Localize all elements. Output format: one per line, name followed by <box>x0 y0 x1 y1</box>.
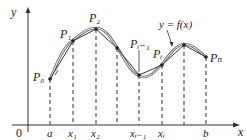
point-label-pi: Pᵢ <box>152 47 162 61</box>
curve-label-arrow-icon <box>170 42 174 47</box>
x-axis-label: x <box>237 125 244 139</box>
point-label-pn: Pₙ <box>209 51 222 65</box>
tick-label-xi-minus-1: xᵢ₋₁ <box>129 127 146 139</box>
point-label-pi-minus-1: Pᵢ₋₁ <box>129 37 150 51</box>
point-label-p1: P₁ <box>59 27 72 41</box>
origin-label: 0 <box>16 126 22 140</box>
curve-label: y = f(x) <box>158 18 192 31</box>
tick-label-x2: x₂ <box>90 127 100 139</box>
tick-label-b: b <box>203 127 209 139</box>
tick-label-xi: xᵢ <box>157 127 165 139</box>
y-axis-label: y <box>10 5 17 19</box>
point-label-p2: P₂ <box>88 11 101 25</box>
polygon-approximation-diagram: y x 0 P₀ P₁ P₂ Pᵢ₋₁ Pᵢ Pₙ y = f(x) a x₁ … <box>0 0 247 140</box>
y-axis-arrow-icon <box>26 7 31 13</box>
tick-label-x1: x₁ <box>67 127 77 139</box>
point-label-p0: P₀ <box>32 70 45 84</box>
tick-label-a: a <box>47 127 53 139</box>
